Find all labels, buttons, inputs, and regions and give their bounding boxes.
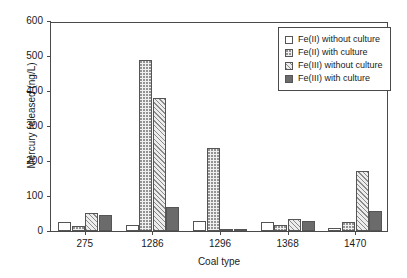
- y-tick-label: 500: [26, 51, 47, 61]
- x-tick-mark: [288, 231, 289, 235]
- bar: [369, 211, 382, 231]
- bar: [85, 213, 98, 231]
- y-tick-label: 600: [26, 16, 47, 26]
- bar: [58, 222, 71, 231]
- y-tick-mark: [47, 196, 51, 197]
- bar: [153, 98, 166, 231]
- bar: [207, 148, 220, 231]
- bar: [166, 207, 179, 232]
- x-tick-label: 1368: [276, 238, 298, 249]
- legend-item: Fe(III) with culture: [285, 72, 383, 85]
- bar: [126, 225, 139, 231]
- bar-chart-figure: Mercury released (ng/L) 0100200300400500…: [0, 0, 407, 278]
- x-tick-mark: [220, 231, 221, 235]
- legend-item: Fe(III) without culture: [285, 59, 383, 72]
- x-tick-mark: [152, 231, 153, 235]
- bar: [261, 222, 274, 231]
- bar: [193, 221, 206, 232]
- y-tick-label: 200: [26, 156, 47, 166]
- bar: [274, 225, 287, 231]
- x-tick-mark: [85, 231, 86, 235]
- y-tick-label: 300: [26, 121, 47, 131]
- y-tick-label: 400: [26, 86, 47, 96]
- legend-label: Fe(III) with culture: [298, 74, 370, 83]
- legend-item: Fe(II) without culture: [285, 33, 383, 46]
- legend: Fe(II) without cultureFe(II) with cultur…: [278, 27, 391, 91]
- legend-label: Fe(III) without culture: [298, 61, 383, 70]
- bar: [234, 229, 247, 231]
- x-tick-label: 275: [76, 238, 93, 249]
- y-tick-mark: [47, 161, 51, 162]
- legend-item: Fe(II) with culture: [285, 46, 383, 59]
- bar: [302, 221, 315, 232]
- y-tick-label: 100: [26, 191, 47, 201]
- x-tick-label: 1296: [209, 238, 231, 249]
- y-tick-mark: [47, 21, 51, 22]
- y-tick-label: 0: [37, 226, 47, 236]
- y-tick-mark: [47, 231, 51, 232]
- bar: [356, 171, 369, 231]
- y-tick-mark: [47, 126, 51, 127]
- legend-swatch-icon: [285, 49, 293, 57]
- x-tick-label: 1470: [344, 238, 366, 249]
- y-tick-mark: [47, 91, 51, 92]
- legend-swatch-icon: [285, 75, 293, 83]
- x-tick-mark: [355, 231, 356, 235]
- x-tick-label: 1286: [141, 238, 163, 249]
- legend-label: Fe(II) with culture: [298, 48, 368, 57]
- bar: [139, 60, 152, 232]
- legend-label: Fe(II) without culture: [298, 35, 380, 44]
- bar: [99, 215, 112, 231]
- bar: [342, 222, 355, 231]
- bar: [72, 226, 85, 231]
- bar: [288, 219, 301, 231]
- y-tick-mark: [47, 56, 51, 57]
- bar: [220, 229, 233, 231]
- legend-swatch-icon: [285, 36, 293, 44]
- x-axis-title: Coal type: [50, 256, 388, 267]
- legend-swatch-icon: [285, 62, 293, 70]
- bar: [328, 228, 341, 231]
